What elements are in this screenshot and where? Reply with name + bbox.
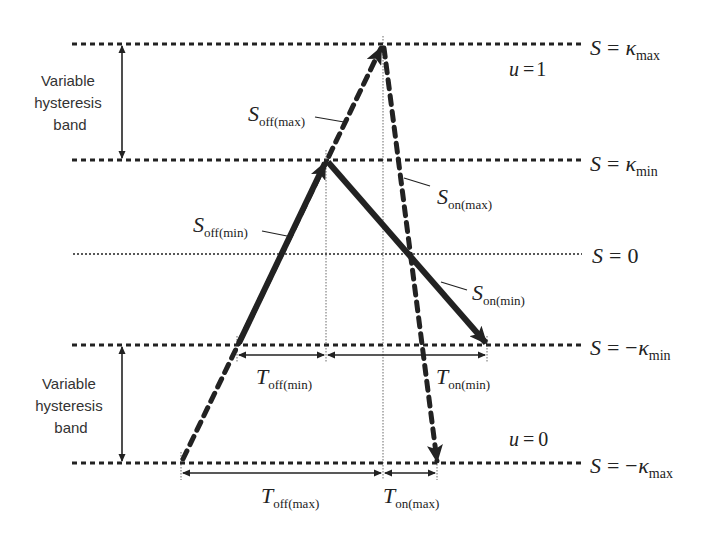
band-label-bottom: Variable hysteresis band	[35, 375, 107, 436]
slope-label-s-off-max: Soff(max)	[248, 101, 305, 129]
level-label-neg-k-min: S=−κmin	[590, 335, 671, 363]
level-label-zero: S=0	[592, 243, 638, 268]
slope-label-s-on-max: Son(max)	[437, 184, 492, 212]
interval-label-t-on-max: Ton(max)	[383, 483, 439, 511]
state-label-u-0: u=0	[509, 428, 548, 450]
interval-label-t-off-min: Toff(min)	[256, 364, 312, 392]
hysteresis-diagram: Variable hysteresis band Variable hyster…	[0, 0, 712, 539]
interval-label-t-on-min: Ton(min)	[436, 364, 490, 392]
level-label-k-min: S=κmin	[590, 151, 658, 179]
level-lines	[72, 44, 582, 463]
slope-label-s-off-min: Soff(min)	[193, 212, 248, 240]
state-label-u-1: u=1	[509, 58, 546, 80]
level-label-k-max: S=κmax	[590, 35, 660, 63]
trajectory-on-min	[328, 162, 486, 343]
trajectory-off-min	[239, 163, 325, 343]
interval-label-t-off-max: Toff(max)	[261, 483, 319, 511]
slope-label-s-on-min: Son(min)	[472, 280, 525, 308]
band-label-top: Variable hysteresis band	[34, 72, 106, 133]
level-label-neg-k-max: S=−κmax	[590, 453, 673, 481]
vertical-guides	[181, 36, 487, 480]
